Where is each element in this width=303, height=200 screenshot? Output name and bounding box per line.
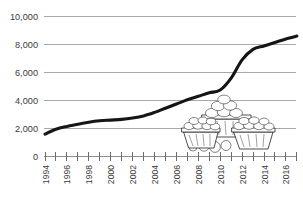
x-tick-label-2006: 2006	[172, 165, 182, 184]
x-tick-label-1996: 1996	[62, 165, 72, 184]
y-tick-label-2000: 2,000	[15, 124, 38, 134]
line-chart: 10,000 8,000 6,000 4,000 2,000 0	[0, 0, 303, 200]
basket-left	[182, 117, 220, 148]
y-tick-label-10000: 10,000	[10, 12, 38, 22]
x-tick-label-2000: 2000	[106, 165, 116, 184]
y-axis-tick-labels: 10,000 8,000 6,000 4,000 2,000 0	[10, 12, 38, 162]
y-tick-label-0: 0	[33, 152, 38, 162]
gridlines	[44, 17, 296, 129]
x-tick-label-1994: 1994	[41, 165, 51, 184]
x-tick-label-1998: 1998	[84, 165, 94, 184]
x-tick-label-2002: 2002	[128, 165, 138, 184]
chart-canvas: 10,000 8,000 6,000 4,000 2,000 0	[0, 0, 303, 200]
loose-fruit-3	[221, 141, 231, 151]
y-tick-label-4000: 4,000	[15, 96, 38, 106]
x-tick-label-2010: 2010	[216, 165, 226, 184]
x-tick-label-2014: 2014	[260, 165, 270, 184]
x-tick-label-2004: 2004	[150, 165, 160, 184]
fruit-pile-left	[184, 117, 220, 130]
x-axis-tick-labels: 1994 1996 1998 2000 2002 2004 2006 2008 …	[41, 165, 292, 184]
x-tick-label-2016: 2016	[281, 165, 291, 184]
x-tick-label-2012: 2012	[238, 165, 248, 184]
x-tick-label-2008: 2008	[194, 165, 204, 184]
fruit-pile-center	[206, 95, 243, 118]
fruit-baskets-illustration	[182, 95, 275, 152]
y-tick-label-8000: 8,000	[15, 40, 38, 50]
y-tick-label-6000: 6,000	[15, 68, 38, 78]
